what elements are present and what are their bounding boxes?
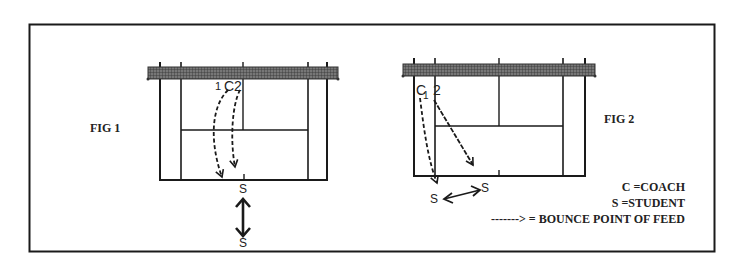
fig1-feed-1-arrow bbox=[214, 90, 228, 177]
fig1-net bbox=[148, 67, 338, 79]
fig2-position-1: 1 bbox=[423, 90, 429, 101]
fig1-student-top: S bbox=[239, 182, 247, 196]
fig1-student-bottom: S bbox=[239, 236, 247, 250]
fig1-coach-marker: C bbox=[224, 78, 234, 94]
fig2-position-2: 2 bbox=[433, 82, 441, 98]
legend-bounce: -------> = BOUNCE POINT OF FEED bbox=[491, 212, 685, 227]
fig2-feed-2-arrow bbox=[434, 100, 473, 165]
fig2-student-move-arrow bbox=[444, 186, 480, 203]
fig2-net bbox=[403, 64, 595, 76]
fig1-title: FIG 1 bbox=[90, 121, 120, 136]
legend-coach: C =COACH bbox=[622, 180, 685, 195]
fig1-student-move-arrow bbox=[236, 199, 250, 236]
fig1-court bbox=[159, 62, 328, 180]
fig2-student-left: S bbox=[430, 192, 438, 206]
fig2-student-right: S bbox=[481, 181, 489, 195]
fig1-position-2: 2 bbox=[234, 78, 242, 94]
fig1-position-1: 1 bbox=[215, 80, 221, 92]
fig2-title: FIG 2 bbox=[604, 112, 634, 127]
legend-student: S =STUDENT bbox=[612, 196, 685, 211]
fig1-feed-2-arrow bbox=[232, 90, 240, 167]
